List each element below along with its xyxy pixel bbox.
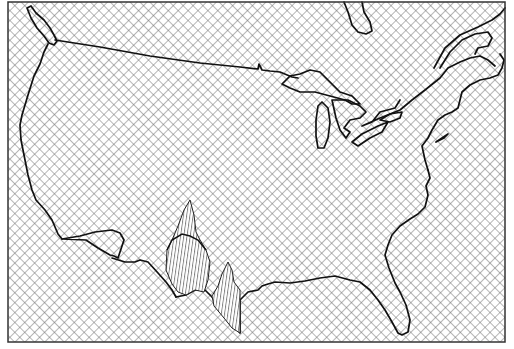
us-outline-map xyxy=(0,0,514,349)
